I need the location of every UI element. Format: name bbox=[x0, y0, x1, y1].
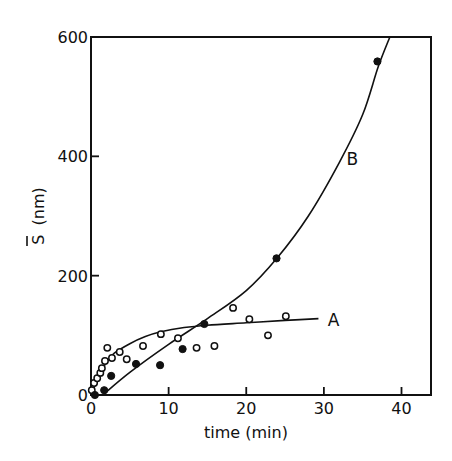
filled-circle-marker bbox=[132, 360, 139, 367]
open-circle-marker bbox=[109, 355, 115, 361]
svg-text:S (nm): S (nm) bbox=[29, 187, 48, 244]
open-circle-marker bbox=[230, 305, 236, 311]
y-tick-label: 600 bbox=[57, 28, 88, 47]
open-circle-marker bbox=[117, 349, 123, 355]
x-tick-label: 10 bbox=[158, 399, 178, 418]
open-circle-marker bbox=[102, 358, 108, 364]
filled-circle-marker bbox=[91, 391, 98, 398]
x-axis-label: time (min) bbox=[204, 423, 288, 442]
curve-label-b: B bbox=[346, 149, 358, 169]
y-axis-unit: (nm) bbox=[29, 187, 48, 225]
filled-circle-marker bbox=[101, 387, 108, 394]
filled-circle-marker bbox=[156, 362, 163, 369]
open-circle-marker bbox=[283, 313, 289, 319]
x-tick-label: 40 bbox=[391, 399, 411, 418]
x-tick-label: 0 bbox=[86, 399, 96, 418]
y-tick-label: 200 bbox=[57, 267, 88, 286]
x-tick-label: 30 bbox=[314, 399, 334, 418]
open-circle-marker bbox=[140, 343, 146, 349]
filled-circle-marker bbox=[201, 320, 208, 327]
open-circle-marker bbox=[246, 316, 252, 322]
curve-label-a: A bbox=[328, 310, 340, 330]
open-circle-marker bbox=[193, 345, 199, 351]
filled-circle-marker bbox=[273, 255, 280, 262]
fit-curves bbox=[91, 37, 390, 395]
filled-circle-marker bbox=[108, 372, 115, 379]
curve-b bbox=[103, 37, 390, 395]
x-tick-label: 20 bbox=[236, 399, 256, 418]
y-axis-label: S (nm) bbox=[27, 187, 48, 246]
y-axis-ticks: 0200400600 bbox=[57, 28, 99, 405]
open-circle-marker bbox=[175, 335, 181, 341]
x-axis-ticks: 010203040 bbox=[86, 387, 412, 418]
open-circle-marker bbox=[265, 332, 271, 338]
open-circle-marker bbox=[104, 345, 110, 351]
filled-circle-marker bbox=[179, 345, 186, 352]
filled-circle-marker bbox=[374, 58, 381, 65]
open-circle-marker bbox=[158, 331, 164, 337]
plot-frame bbox=[91, 37, 431, 395]
open-circle-marker bbox=[124, 356, 130, 362]
chart: 0200400600 010203040 AB time (min) S (nm… bbox=[0, 0, 452, 461]
open-circle-marker bbox=[99, 365, 105, 371]
open-circle-marker bbox=[211, 343, 217, 349]
y-axis-symbol: S bbox=[29, 235, 48, 245]
y-tick-label: 400 bbox=[57, 147, 88, 166]
data-points bbox=[89, 58, 381, 399]
